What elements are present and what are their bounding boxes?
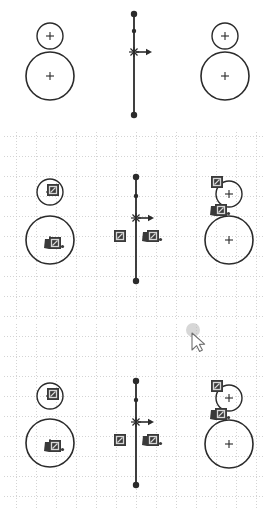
- cad-canvas[interactable]: [0, 0, 269, 510]
- cursor-layer: [0, 0, 269, 510]
- pointer-arrow-icon: [192, 333, 205, 351]
- mouse-pointer: [186, 323, 205, 351]
